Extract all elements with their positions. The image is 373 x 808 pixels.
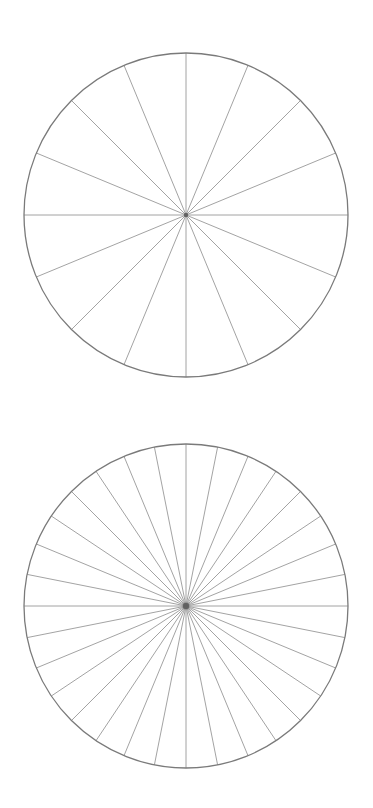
sector-divider-line [124,65,186,215]
wheel-32-sectors [0,400,373,808]
sector-divider-line [186,215,301,330]
sector-divider-line [186,544,336,606]
sector-divider-line [36,215,186,277]
sector-divider-line [186,215,248,365]
sector-divider-line [186,491,301,606]
sector-divider-line [186,153,336,215]
sector-divider-line [186,606,248,756]
sector-divider-line [36,544,186,606]
sector-divider-line [186,100,301,215]
wheel-16-sectors-graphic [0,0,373,400]
center-hub [184,213,188,217]
sector-divider-line [71,100,186,215]
sector-divider-line [124,606,186,756]
sector-divider-line [71,491,186,606]
sector-divider-line [124,456,186,606]
sector-divider-line [186,606,301,721]
wheel-32-sectors-graphic [0,400,373,808]
center-hub [183,603,189,609]
sector-divider-line [71,606,186,721]
sector-divider-line [186,456,248,606]
sector-divider-line [71,215,186,330]
sector-divider-line [186,606,336,668]
sector-divider-line [186,65,248,215]
sector-divider-line [186,215,336,277]
sector-divider-line [124,215,186,365]
sector-divider-line [36,153,186,215]
wheel-16-sectors [0,0,373,400]
sector-divider-line [36,606,186,668]
